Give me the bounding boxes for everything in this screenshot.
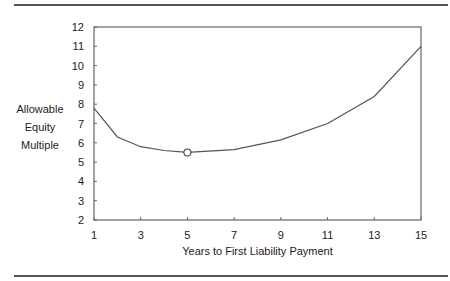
y-tick-label: 4 xyxy=(78,175,84,187)
y-tick-label: 7 xyxy=(78,118,84,130)
x-tick-label: 15 xyxy=(415,229,427,241)
y-tick-label: 11 xyxy=(73,40,84,52)
x-tick-label: 13 xyxy=(368,229,380,241)
y-tick-label: 2 xyxy=(78,214,84,226)
y-tick-label: 9 xyxy=(78,79,84,91)
y-axis-ticks: 23456789101112 xyxy=(72,21,97,226)
x-tick-label: 1 xyxy=(91,229,97,241)
x-axis-ticks: 13579111315 xyxy=(91,217,427,241)
y-tick-label: 8 xyxy=(78,98,84,110)
highlight-marker xyxy=(184,149,191,156)
y-tick-label: 6 xyxy=(78,137,84,149)
line-chart: 23456789101112 13579111315 xyxy=(0,0,450,281)
y-tick-label: 5 xyxy=(78,156,84,168)
plot-frame xyxy=(94,27,421,220)
y-tick-label: 10 xyxy=(72,60,84,72)
x-axis-title: Years to First Liability Payment xyxy=(94,245,421,257)
x-tick-label: 9 xyxy=(278,229,284,241)
x-tick-label: 3 xyxy=(138,229,144,241)
y-tick-label: 12 xyxy=(72,21,84,33)
x-tick-label: 5 xyxy=(184,229,190,241)
series-line xyxy=(94,46,421,152)
y-tick-label: 3 xyxy=(78,195,84,207)
x-tick-label: 11 xyxy=(322,229,333,241)
bottom-rule xyxy=(14,275,448,277)
x-tick-label: 7 xyxy=(231,229,237,241)
